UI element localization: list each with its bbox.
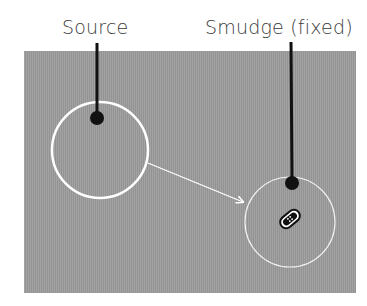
source-callout xyxy=(90,43,104,125)
bandage-icon xyxy=(278,207,303,230)
diagram-overlay xyxy=(0,0,367,306)
direction-arrow xyxy=(148,163,243,202)
smudge-callout xyxy=(285,42,299,190)
